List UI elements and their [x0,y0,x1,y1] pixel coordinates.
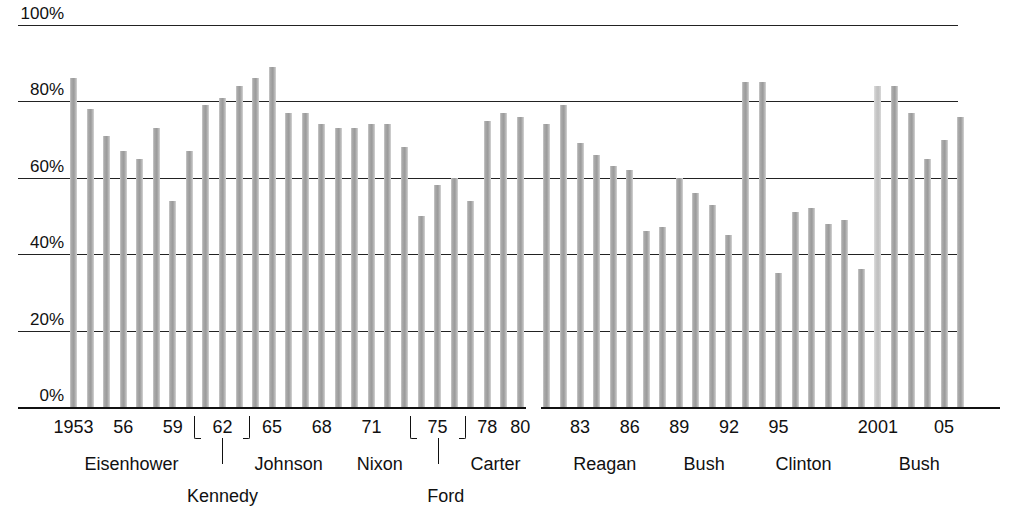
bar-1968 [318,124,325,407]
bracket-right-arm [459,416,466,439]
bar-1969 [335,128,342,407]
bar-1956 [120,151,127,407]
bar-1985 [610,166,617,407]
bar-1973 [401,147,408,407]
bar-1959 [169,201,176,407]
bar-series [0,0,1016,407]
bar-1957 [136,159,143,407]
bar-1986 [626,170,633,407]
bar-1997 [808,208,815,407]
bar-1961 [202,105,209,407]
bar-1953 [70,78,77,407]
bar-1962 [219,98,226,407]
bar-2002 [891,86,898,407]
bracket-stem [222,438,223,464]
bracket-1962 [194,416,250,464]
bar-1990 [692,193,699,407]
bracket-left-arm [194,416,201,439]
bar-1970 [351,128,358,407]
bar-1971 [368,124,375,407]
bar-1958 [153,128,160,407]
axis-baseline-segment-0 [18,407,526,409]
bar-1977 [467,201,474,407]
x-tick-label-2005: 05 [904,418,984,436]
president-label-bush-2001: Bush [819,455,1016,473]
bar-1978 [484,121,491,408]
bar-1980 [517,117,524,407]
bar-1983 [577,143,584,407]
president-callout-kennedy: Kennedy [122,487,322,505]
bar-2000 [858,269,865,407]
bar-1963 [236,86,243,407]
bar-1998 [825,224,832,407]
bracket-1975 [410,416,466,464]
bar-1987 [643,231,650,407]
bar-2001 [874,86,881,407]
chart-root: 100%80%60%40%20%0% 195356596265687175788… [0,0,1016,522]
bar-2005 [941,140,948,407]
bar-2006 [957,117,964,407]
bracket-right-arm [243,416,250,439]
bar-1979 [500,113,507,407]
bracket-left-arm [410,416,417,439]
bar-1955 [103,136,110,407]
bar-2004 [924,159,931,407]
bar-1995 [775,273,782,407]
bar-1988 [659,227,666,407]
bar-1993 [742,82,749,407]
bar-1975 [434,185,441,407]
bar-1994 [759,82,766,407]
bar-1982 [560,105,567,407]
axis-baseline-segment-1 [541,407,1000,409]
president-callout-ford: Ford [346,487,546,505]
bar-1960 [186,151,193,407]
bar-1976 [451,178,458,407]
bar-1984 [593,155,600,407]
bar-1999 [841,220,848,407]
bracket-stem [438,438,439,464]
bar-1972 [384,124,391,407]
bar-1981 [543,124,550,407]
bar-2003 [908,113,915,407]
x-tick-label-1995: 95 [739,418,819,436]
bar-1996 [792,212,799,407]
bar-1967 [302,113,309,407]
bar-1964 [252,78,259,407]
bar-1965 [269,67,276,407]
bar-1954 [87,109,94,407]
bar-1974 [418,216,425,407]
bar-1966 [285,113,292,407]
bar-1991 [709,205,716,407]
bar-1992 [725,235,732,407]
bar-1989 [676,178,683,407]
